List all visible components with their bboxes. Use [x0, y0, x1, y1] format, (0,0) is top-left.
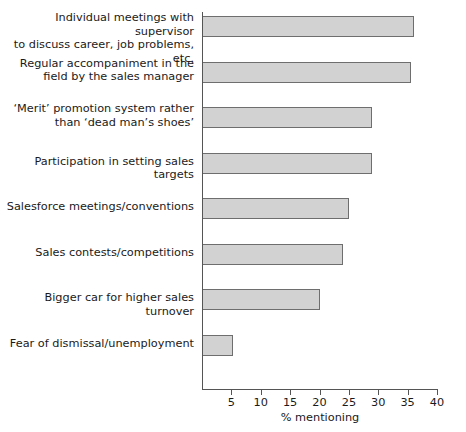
x-axis-tick	[437, 389, 438, 395]
bar	[202, 16, 414, 37]
chart-row: Regular accompaniment in the field by th…	[0, 58, 466, 104]
bar	[202, 198, 349, 219]
chart-row: Individual meetings with supervisor to d…	[0, 12, 466, 58]
x-axis-tick-label: 40	[422, 396, 452, 409]
bar	[202, 289, 320, 310]
bar	[202, 62, 411, 83]
x-axis-tick-label: 35	[393, 396, 423, 409]
plot-area: Individual meetings with supervisor to d…	[0, 0, 466, 432]
x-axis-tick	[320, 389, 321, 395]
chart-row: ‘Merit’ promotion system rather than ‘de…	[0, 103, 466, 149]
x-axis-tick-label: 30	[363, 396, 393, 409]
bar	[202, 153, 372, 174]
category-label: ‘Merit’ promotion system rather than ‘de…	[0, 102, 194, 129]
chart-row: Bigger car for higher sales turnover	[0, 285, 466, 331]
bar-chart: Individual meetings with supervisor to d…	[0, 0, 466, 432]
bar	[202, 244, 343, 265]
chart-row: Fear of dismissal/unemployment	[0, 331, 466, 377]
category-label: Fear of dismissal/unemployment	[0, 337, 194, 351]
x-axis-tick	[231, 389, 232, 395]
x-axis-tick	[261, 389, 262, 395]
category-label: Sales contests/competitions	[0, 246, 194, 260]
x-axis-tick-label: 10	[246, 396, 276, 409]
bar	[202, 335, 233, 356]
chart-row: Sales contests/competitions	[0, 240, 466, 286]
x-axis-tick-label: 5	[216, 396, 246, 409]
category-label: Bigger car for higher sales turnover	[0, 291, 194, 318]
category-label: Regular accompaniment in the field by th…	[0, 57, 194, 84]
x-axis-tick-label: 15	[275, 396, 305, 409]
category-label: Salesforce meetings/conventions	[0, 200, 194, 214]
x-axis-title: % mentioning	[202, 411, 438, 424]
x-axis-tick	[378, 389, 379, 395]
chart-row: Salesforce meetings/conventions	[0, 194, 466, 240]
x-axis-tick	[290, 389, 291, 395]
x-axis-tick	[408, 389, 409, 395]
x-axis-tick-label: 20	[305, 396, 335, 409]
bar	[202, 107, 372, 128]
x-axis-tick-label: 25	[334, 396, 364, 409]
y-axis-line	[202, 12, 203, 389]
chart-row: Participation in setting sales targets	[0, 149, 466, 195]
x-axis-tick	[349, 389, 350, 395]
category-label: Participation in setting sales targets	[0, 155, 194, 182]
